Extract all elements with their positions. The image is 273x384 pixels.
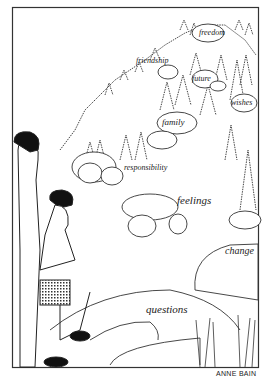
label-family: family <box>162 117 185 127</box>
label-feelings: feelings <box>177 194 211 206</box>
label-change: change <box>225 245 254 256</box>
label-wishes: wishes <box>231 98 252 107</box>
label-friendship: friendship <box>136 56 168 65</box>
label-questions: questions <box>146 303 188 315</box>
label-responsibility: responsibility <box>124 163 167 172</box>
label-freedom: freedom <box>199 28 225 37</box>
artist-credit: ANNE BAIN <box>216 370 256 377</box>
label-future: future <box>192 74 211 83</box>
